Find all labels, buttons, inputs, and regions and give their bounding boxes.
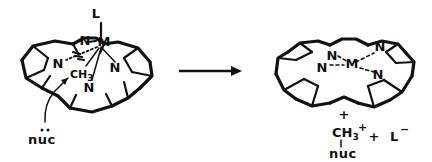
product-nitrogen-right-label: N <box>373 67 384 82</box>
reactant-nitrogen-top-label: N <box>80 33 91 48</box>
methylated-nucleophile-nuc: nuc <box>329 146 357 161</box>
product-byproducts: CH3 + nuc + L − <box>329 121 409 161</box>
reaction-scheme-figure: L M N N N N CH3 nuc <box>0 0 432 162</box>
reactant-structure: L M N N N N CH3 nuc <box>22 6 152 147</box>
product-nitrogen-top-left-label: N <box>327 48 338 63</box>
methylated-nucleophile-methyl: CH3 <box>332 125 359 142</box>
product-nitrogen-top-right-label: N <box>375 39 386 54</box>
product-nitrogen-left-label: N <box>317 60 328 75</box>
scheme-canvas: L M N N N N CH3 nuc <box>0 0 432 162</box>
product-complex-charge: + <box>339 107 350 122</box>
reactant-nitrogen-left-label: N <box>53 56 64 71</box>
methylated-nucleophile-charge: + <box>358 121 367 134</box>
product-metal-label: M <box>346 56 359 71</box>
reactant-nitrogen-right-label: N <box>110 60 121 75</box>
reaction-arrow <box>179 66 242 76</box>
product-plus-operator: + <box>369 129 380 144</box>
reactant-metal-label: M <box>98 34 111 49</box>
nucleophile-attack-arrow <box>45 78 68 122</box>
released-ligand-label: L <box>390 129 398 144</box>
reactant-nucleophile-label: nuc <box>28 132 56 147</box>
product-macrocycle-skeleton <box>276 39 414 107</box>
reactant-axial-ligand-label: L <box>92 6 100 21</box>
product-structure: + N N N N M <box>276 39 414 122</box>
released-ligand-charge: − <box>400 123 409 136</box>
reactant-methyl-label: CH3 <box>70 68 94 83</box>
